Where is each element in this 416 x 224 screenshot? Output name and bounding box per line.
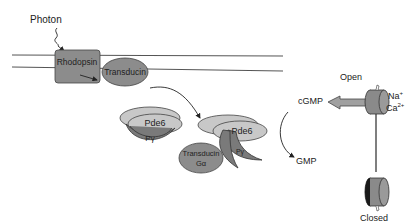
- pde6-right-label: Pde6: [231, 126, 252, 136]
- open-label: Open: [340, 72, 362, 82]
- cgmp-binding-arrow: [328, 96, 366, 109]
- pgamma-right-label: Pγ: [236, 148, 245, 156]
- rhodopsin-label: Rhodopsin: [57, 57, 98, 67]
- cng-channel-closed: [365, 178, 389, 211]
- cng-channel-open: [328, 85, 389, 172]
- gmp-label: GMP: [296, 156, 317, 166]
- closed-label: Closed: [360, 213, 388, 223]
- transducin-label: Transducin: [104, 67, 146, 77]
- transducin-ga-label-line1: Transducin: [183, 149, 220, 158]
- photon-label: Photon: [30, 14, 62, 25]
- pde6-left-label: Pde6: [144, 118, 165, 128]
- photon-squiggle-arrow: [55, 28, 64, 51]
- rhodopsin: Rhodopsin: [55, 50, 100, 83]
- pde6-inactive: Pde6 Pγ: [120, 107, 182, 143]
- ca-label: Ca2+: [386, 102, 405, 113]
- hydrolysis-arrow: [280, 112, 294, 157]
- cgmp-label: cGMP: [298, 96, 323, 106]
- transducin-ga-label-line2: Gα: [196, 159, 207, 168]
- transducin-galpha: Transducin Gα: [179, 143, 223, 173]
- pgamma-left-label: Pγ: [145, 134, 154, 143]
- transducin: Transducin: [102, 58, 148, 86]
- na-label: Na+: [388, 90, 404, 101]
- phototransduction-diagram: Photon Rhodopsin Transducin Pde6 Pγ Pde6…: [0, 0, 416, 224]
